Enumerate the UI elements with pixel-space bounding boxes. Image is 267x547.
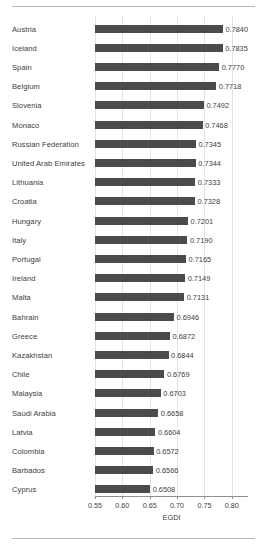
bar-row: Italy0.7190 — [0, 230, 267, 249]
category-label: Colombia — [12, 446, 44, 455]
bar-row: Slovenia0.7492 — [0, 96, 267, 115]
value-label: 0.7333 — [198, 178, 221, 187]
category-label: Barbados — [12, 466, 45, 475]
category-label: Kazakhstan — [12, 350, 52, 359]
bar-row: Kazakhstan0.6844 — [0, 345, 267, 364]
x-axis: 0.550.600.650.700.750.80 EGDI — [0, 496, 267, 536]
bar-row: Malaysia0.6703 — [0, 384, 267, 403]
bar-row: Croatia0.7328 — [0, 192, 267, 211]
value-label: 0.7328 — [197, 197, 220, 206]
x-tick-label: 0.70 — [170, 501, 184, 510]
bar — [95, 217, 188, 225]
bar — [95, 274, 185, 282]
category-label: Austria — [12, 24, 36, 33]
x-tick-label: 0.65 — [143, 501, 157, 510]
value-label: 0.6508 — [153, 485, 176, 494]
value-label: 0.7131 — [187, 293, 210, 302]
bar — [95, 25, 223, 33]
bar — [95, 255, 186, 263]
category-label: Greece — [12, 331, 37, 340]
bar-row: Latvia0.6604 — [0, 422, 267, 441]
category-label: Iceland — [12, 43, 37, 52]
x-tick-label: 0.55 — [88, 501, 102, 510]
category-label: Italy — [12, 235, 26, 244]
value-label: 0.7835 — [225, 43, 248, 52]
category-label: Hungary — [12, 216, 41, 225]
bar-row: Iceland0.7835 — [0, 38, 267, 57]
category-label: Bahrain — [12, 312, 39, 321]
top-divider-rule — [12, 6, 255, 7]
plot-area: Austria0.7840Iceland0.7835Spain0.7770Bel… — [0, 16, 267, 496]
bar — [95, 332, 170, 340]
egdi-bar-chart-figure: Austria0.7840Iceland0.7835Spain0.7770Bel… — [0, 0, 267, 547]
value-label: 0.6658 — [161, 408, 184, 417]
category-label: Portugal — [12, 254, 41, 263]
bar-row: Ireland0.7149 — [0, 269, 267, 288]
category-label: Saudi Arabia — [12, 408, 56, 417]
x-tick — [122, 496, 123, 499]
category-label: Malta — [12, 293, 31, 302]
category-label: Malaysia — [12, 389, 42, 398]
bar-row: Belgium0.7718 — [0, 77, 267, 96]
value-label: 0.7468 — [205, 120, 228, 129]
category-label: Cyprus — [12, 485, 36, 494]
bar-row: Saudi Arabia0.6658 — [0, 403, 267, 422]
category-label: Croatia — [12, 197, 37, 206]
value-label: 0.7840 — [225, 24, 248, 33]
bar-row: Spain0.7770 — [0, 57, 267, 76]
value-label: 0.6604 — [158, 427, 181, 436]
bar — [95, 293, 184, 301]
category-label: Lithuania — [12, 178, 43, 187]
bar-row: United Arab Emirates0.7344 — [0, 153, 267, 172]
value-label: 0.7201 — [191, 216, 214, 225]
value-label: 0.7165 — [189, 254, 212, 263]
bar — [95, 313, 174, 321]
value-label: 0.7190 — [190, 235, 213, 244]
x-tick-label: 0.60 — [115, 501, 129, 510]
category-label: Spain — [12, 62, 32, 71]
category-label: Slovenia — [12, 101, 42, 110]
bar-row: Colombia0.6572 — [0, 441, 267, 460]
value-label: 0.7492 — [206, 101, 229, 110]
bar — [95, 197, 195, 205]
bar — [95, 121, 203, 129]
bar-row: Hungary0.7201 — [0, 211, 267, 230]
category-label: Chile — [12, 370, 30, 379]
bar — [95, 351, 169, 359]
bar-row: Malta0.7131 — [0, 288, 267, 307]
category-label: Belgium — [12, 82, 40, 91]
bar-row: Monaco0.7468 — [0, 115, 267, 134]
bar-row: Portugal0.7165 — [0, 249, 267, 268]
bar-row: Chile0.6769 — [0, 365, 267, 384]
value-label: 0.6572 — [156, 446, 179, 455]
bar — [95, 485, 150, 493]
x-tick — [177, 496, 178, 499]
bar — [95, 101, 204, 109]
value-label: 0.7718 — [219, 82, 242, 91]
x-tick — [204, 496, 205, 499]
x-axis-title: EGDI — [163, 513, 181, 522]
value-label: 0.7344 — [198, 158, 221, 167]
x-axis-line — [95, 496, 248, 497]
category-label: Monaco — [12, 120, 39, 129]
category-label: Russian Federation — [12, 139, 79, 148]
bar-row: Bahrain0.6946 — [0, 307, 267, 326]
value-label: 0.7149 — [188, 274, 211, 283]
bar-row: Russian Federation0.7345 — [0, 134, 267, 153]
x-tick — [95, 496, 96, 499]
x-tick — [150, 496, 151, 499]
category-label: Ireland — [12, 274, 36, 283]
category-label: Latvia — [12, 427, 33, 436]
value-label: 0.6872 — [173, 331, 196, 340]
bar-row: Austria0.7840 — [0, 19, 267, 38]
value-label: 0.7770 — [222, 62, 245, 71]
bar — [95, 178, 195, 186]
value-label: 0.6844 — [171, 350, 194, 359]
x-tick — [232, 496, 233, 499]
bar — [95, 236, 187, 244]
bar — [95, 82, 216, 90]
bar-row: Greece0.6872 — [0, 326, 267, 345]
bar — [95, 428, 155, 436]
bar — [95, 466, 153, 474]
value-label: 0.6946 — [177, 312, 200, 321]
